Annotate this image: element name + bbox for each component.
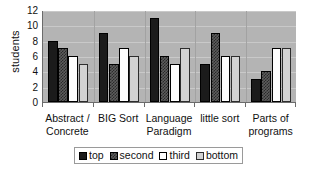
x-axis-category-label-line2: Paradigm	[138, 125, 201, 138]
bar	[160, 56, 170, 102]
legend-item-label: second	[120, 150, 154, 161]
bar	[282, 48, 292, 102]
x-axis-category-label-line2: programs	[239, 125, 302, 138]
bar-group	[246, 11, 297, 102]
legend-item[interactable]: third	[159, 150, 189, 161]
bar	[79, 64, 89, 102]
bar	[251, 79, 261, 102]
x-axis-labels: Abstract /ConcreteBIG SortLanguageParadi…	[42, 112, 296, 142]
bar-group	[195, 11, 246, 102]
legend-item-label: top	[89, 150, 104, 161]
y-axis-tick-label: 10	[16, 21, 38, 31]
legend-item[interactable]: top	[79, 150, 104, 161]
y-axis-tick-label: 2	[16, 83, 38, 93]
y-axis-tick-label: 6	[16, 52, 38, 62]
bar	[150, 18, 160, 102]
x-axis-category-label: Parts ofprograms	[239, 112, 302, 138]
legend-item-label: bottom	[206, 150, 238, 161]
x-axis-tick	[144, 103, 145, 107]
bar-group	[145, 11, 196, 102]
chart-legend: topsecondthirdbottom	[74, 147, 243, 164]
bar	[48, 41, 58, 102]
plot-area	[42, 11, 296, 103]
bar	[119, 48, 129, 102]
bars-layer	[43, 11, 296, 102]
x-axis-tick	[295, 103, 296, 107]
bar	[109, 64, 119, 102]
y-axis-tick-labels: 121086420	[16, 11, 38, 103]
x-axis-ticks	[42, 103, 296, 107]
bar	[170, 64, 180, 102]
x-axis-tick	[194, 103, 195, 107]
x-axis-category-label-line2: Concrete	[36, 125, 99, 138]
x-axis-tick	[245, 103, 246, 107]
bar	[68, 56, 78, 102]
x-axis-category-label-line1: Parts of	[239, 112, 302, 125]
legend-swatch-icon	[159, 152, 167, 160]
y-axis-tick-label: 0	[16, 98, 38, 108]
bar	[58, 48, 68, 102]
bar	[99, 33, 109, 102]
bar	[221, 56, 231, 102]
y-axis-tick-label: 8	[16, 37, 38, 47]
legend-swatch-icon	[196, 152, 204, 160]
y-axis-tick-label: 4	[16, 67, 38, 77]
bar	[261, 71, 271, 102]
x-axis-tick	[93, 103, 94, 107]
bar	[180, 48, 190, 102]
bar	[200, 64, 210, 102]
legend-swatch-icon	[110, 152, 118, 160]
bar-group	[43, 11, 94, 102]
legend-swatch-icon	[79, 152, 87, 160]
bar	[231, 56, 241, 102]
legend-item-label: third	[169, 150, 189, 161]
bar-chart: students 121086420 Abstract /ConcreteBIG…	[0, 0, 310, 169]
bar	[272, 48, 282, 102]
legend-item[interactable]: bottom	[196, 150, 238, 161]
y-axis-tick-label: 12	[16, 6, 38, 16]
legend-item[interactable]: second	[110, 150, 154, 161]
bar	[211, 33, 221, 102]
x-axis-tick	[42, 103, 43, 107]
bar-group	[94, 11, 145, 102]
bar	[129, 56, 139, 102]
